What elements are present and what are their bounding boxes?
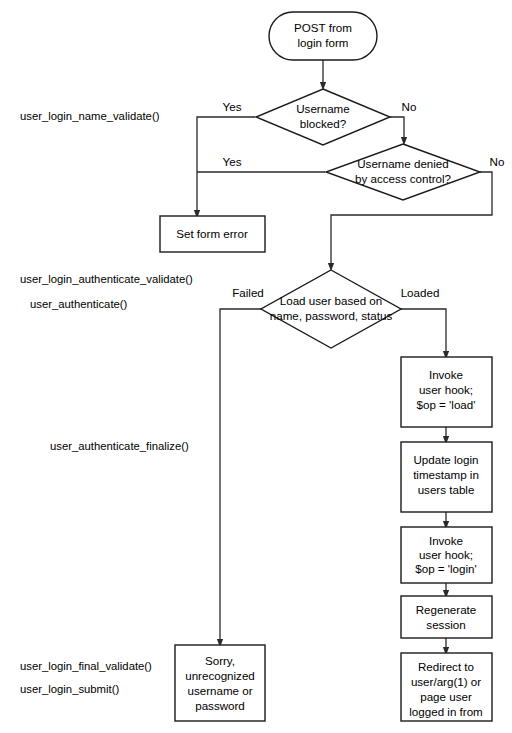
node-blocked-line2: blocked? bbox=[300, 117, 347, 130]
node-hook-load-line2: user hook; bbox=[419, 383, 473, 396]
node-regenerate-line2: session bbox=[426, 618, 465, 631]
node-update-line2: timestamp in bbox=[413, 468, 479, 481]
node-decision-load-user: Load user based on name, password, statu… bbox=[261, 270, 401, 348]
api-label-login-submit: user_login_submit() bbox=[20, 683, 119, 695]
flowchart-diagram: POST from login form Username blocked? U… bbox=[0, 0, 512, 733]
node-sorry-unrecognized: Sorry, unrecognized username or password bbox=[175, 645, 265, 721]
node-hook-login-line1: Invoke bbox=[429, 534, 463, 547]
edge-load-failed bbox=[220, 309, 261, 643]
node-hook-login-line2: user hook; bbox=[419, 548, 473, 561]
branch-label-load-failed: Failed bbox=[232, 286, 264, 299]
node-update-login-timestamp: Update login timestamp in users table bbox=[401, 442, 492, 512]
branch-label-load-loaded: Loaded bbox=[401, 286, 440, 299]
node-set-form-error: Set form error bbox=[160, 216, 265, 252]
api-label-authenticate-finalize: user_authenticate_finalize() bbox=[50, 440, 189, 452]
node-load-line1: Load user based on bbox=[280, 294, 383, 307]
api-label-name-validate: user_login_name_validate() bbox=[20, 110, 160, 122]
branch-label-access-no: No bbox=[490, 155, 505, 168]
node-hook-login-line3: $op = 'login' bbox=[415, 562, 476, 575]
node-decision-access-control: Username denied by access control? bbox=[326, 144, 480, 200]
node-hook-load-line3: $op = 'load' bbox=[417, 398, 476, 411]
node-redirect-line3: page user bbox=[420, 690, 472, 703]
node-sorry-line1: Sorry, bbox=[205, 654, 235, 667]
api-label-authenticate: user_authenticate() bbox=[30, 298, 128, 310]
node-update-line3: users table bbox=[418, 483, 475, 496]
node-redirect-line1: Redirect to bbox=[418, 660, 474, 673]
branch-label-blocked-no: No bbox=[402, 100, 417, 113]
edge-blocked-no bbox=[390, 117, 404, 141]
branch-label-access-yes: Yes bbox=[223, 155, 242, 168]
node-start-line1: POST from bbox=[294, 21, 352, 34]
node-update-line1: Update login bbox=[413, 453, 478, 466]
node-set-form-error-label: Set form error bbox=[176, 227, 248, 240]
node-access-line2: by access control? bbox=[355, 172, 452, 185]
branch-label-blocked-yes: Yes bbox=[223, 100, 242, 113]
node-start-line2: login form bbox=[298, 36, 349, 49]
node-blocked-line1: Username bbox=[296, 102, 349, 115]
flowchart-canvas: POST from login form Username blocked? U… bbox=[0, 0, 512, 733]
node-decision-username-blocked: Username blocked? bbox=[256, 89, 390, 145]
node-invoke-hook-login: Invoke user hook; $op = 'login' bbox=[401, 527, 492, 583]
api-annotation-layer: user_login_name_validate() user_login_au… bbox=[20, 110, 193, 695]
node-invoke-hook-load: Invoke user hook; $op = 'load' bbox=[401, 357, 492, 427]
api-label-final-validate: user_login_final_validate() bbox=[20, 660, 152, 672]
node-redirect: Redirect to user/arg(1) or page user log… bbox=[401, 653, 492, 721]
node-access-line1: Username denied bbox=[357, 157, 449, 170]
node-regenerate-line1: Regenerate bbox=[416, 603, 477, 616]
api-label-authenticate-validate: user_login_authenticate_validate() bbox=[20, 273, 193, 285]
node-regenerate-session: Regenerate session bbox=[401, 596, 492, 638]
node-start: POST from login form bbox=[269, 12, 377, 60]
branch-label-layer: Yes No Yes No Failed Loaded bbox=[223, 100, 505, 299]
edge-load-loaded bbox=[401, 309, 446, 355]
node-redirect-line2: user/arg(1) or bbox=[411, 675, 481, 688]
node-redirect-line4: logged in from bbox=[409, 705, 482, 718]
node-load-line2: name, password, status bbox=[270, 309, 393, 322]
node-sorry-line4: password bbox=[195, 699, 245, 712]
node-hook-load-line1: Invoke bbox=[429, 368, 463, 381]
node-sorry-line2: unrecognized bbox=[185, 669, 255, 682]
node-sorry-line3: username or bbox=[187, 684, 252, 697]
